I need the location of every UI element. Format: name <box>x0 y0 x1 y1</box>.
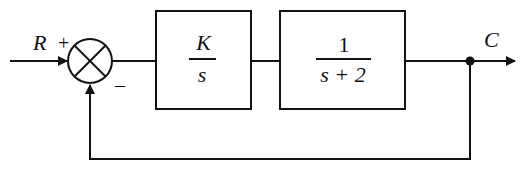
input-label: R <box>32 30 47 55</box>
output-label: C <box>484 27 499 52</box>
minus-sign: – <box>114 74 126 96</box>
plus-sign: + <box>58 32 69 54</box>
controller-block: K s <box>156 11 251 109</box>
summing-junction-icon <box>68 39 112 83</box>
plant-numerator: 1 <box>339 32 350 57</box>
plant-denominator: s + 2 <box>320 62 365 87</box>
block-diagram: R + – K s 1 s + 2 C <box>0 0 532 173</box>
controller-denominator: s <box>198 62 207 87</box>
controller-numerator: K <box>195 30 212 55</box>
